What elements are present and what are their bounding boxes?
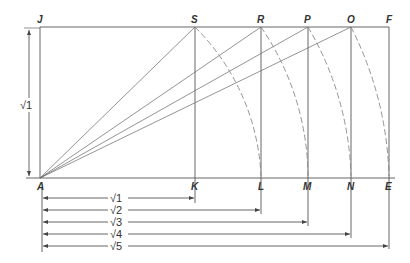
point-labels: J S R P O F A K L M N E	[36, 14, 393, 192]
diagram-canvas: √1 √1 √2 √3 √4 √5 J S R P O	[0, 0, 410, 263]
label-M: M	[303, 181, 312, 192]
label-L: L	[258, 181, 264, 192]
label-N: N	[347, 181, 355, 192]
diagonal-AS	[40, 27, 195, 178]
label-P: P	[304, 14, 311, 25]
dim-5-label: √5	[110, 240, 122, 252]
arc-O-to-E	[351, 27, 389, 176]
dim-1-label: √1	[110, 192, 122, 204]
diagonal-AO	[40, 27, 351, 178]
label-S: S	[191, 14, 198, 25]
dim-3-label: √3	[110, 216, 122, 228]
bottom-dimensions: √1 √2 √3 √4 √5	[43, 192, 388, 252]
dim-2-label: √2	[110, 204, 122, 216]
label-F: F	[386, 14, 393, 25]
label-J: J	[37, 14, 43, 25]
diagonal-AR	[40, 27, 261, 178]
label-R: R	[257, 14, 265, 25]
label-K: K	[191, 181, 199, 192]
side-dimension: √1	[20, 28, 40, 176]
label-A: A	[36, 181, 44, 192]
side-dim-label: √1	[20, 99, 32, 111]
arcs	[195, 27, 389, 176]
arc-P-to-N	[308, 27, 351, 176]
label-E: E	[385, 181, 392, 192]
label-O: O	[347, 14, 355, 25]
dim-4-label: √4	[110, 228, 122, 240]
verticals	[42, 27, 389, 252]
diagonals	[40, 27, 351, 178]
root-sqrt-construction-diagram: √1 √1 √2 √3 √4 √5 J S R P O	[0, 0, 410, 263]
diagonal-AP	[40, 27, 308, 178]
